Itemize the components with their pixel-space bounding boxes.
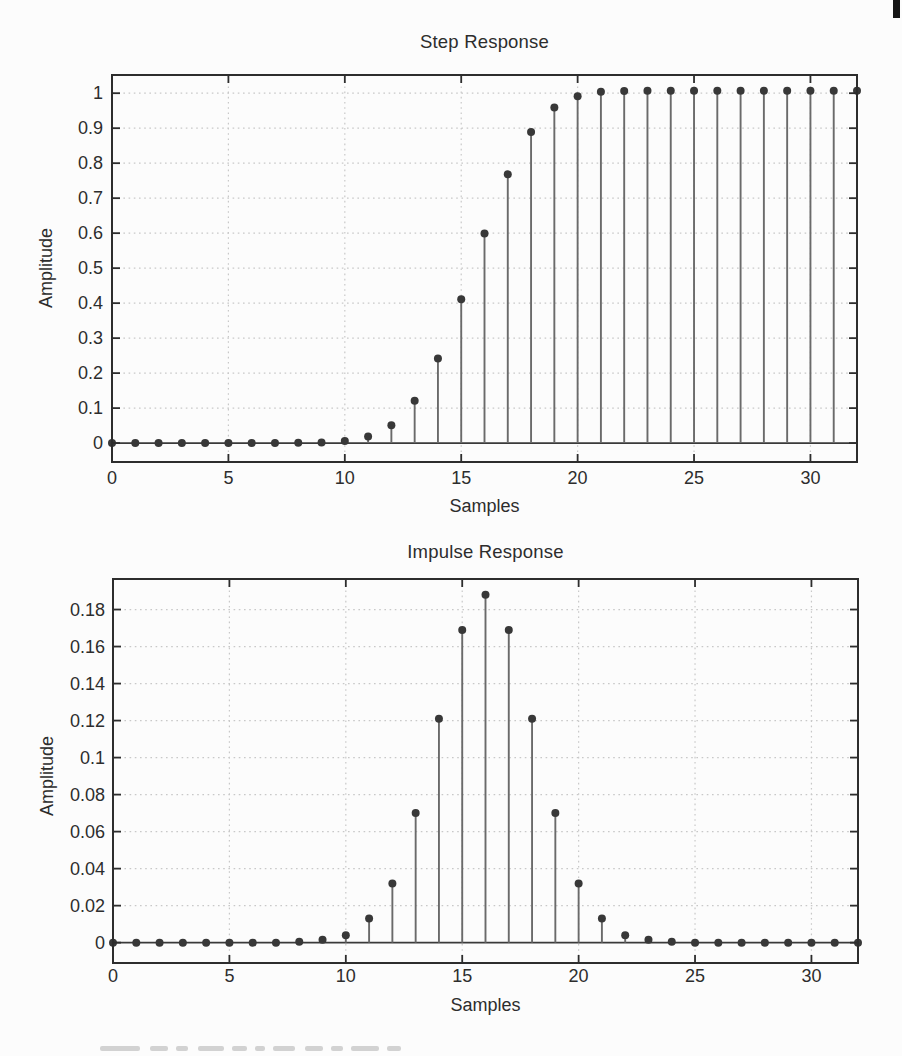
x-tick-label: 30	[800, 468, 820, 488]
data-point	[668, 938, 676, 946]
data-point	[131, 439, 139, 447]
data-point	[761, 939, 769, 947]
data-point	[551, 809, 559, 817]
data-point	[364, 432, 372, 440]
data-point	[202, 939, 210, 947]
data-point	[667, 87, 675, 95]
stem-plots-canvas: 05101520253000.10.20.30.40.50.60.70.80.9…	[0, 0, 902, 1056]
data-point	[319, 936, 327, 944]
data-point	[574, 92, 582, 100]
y-tick-label: 0.7	[78, 188, 103, 208]
y-tick-label: 0.02	[70, 896, 105, 916]
y-tick-label: 0.2	[78, 363, 103, 383]
y-tick-label: 0.6	[78, 223, 103, 243]
y-tick-label: 0.1	[80, 748, 105, 768]
y-tick-label: 0.18	[70, 600, 105, 620]
caption-fragment	[100, 1046, 440, 1053]
x-tick-label: 10	[335, 468, 355, 488]
data-point	[272, 939, 280, 947]
data-point	[155, 439, 163, 447]
data-point	[738, 939, 746, 947]
data-point	[365, 915, 373, 923]
data-point	[714, 939, 722, 947]
data-point	[598, 915, 606, 923]
y-tick-label: 0	[93, 433, 103, 453]
data-point	[482, 591, 490, 599]
data-point	[295, 938, 303, 946]
y-tick-label: 0.1	[78, 398, 103, 418]
data-point	[691, 939, 699, 947]
y-tick-label: 0.06	[70, 822, 105, 842]
data-point	[806, 87, 814, 95]
data-point	[690, 87, 698, 95]
y-tick-label: 0.08	[70, 785, 105, 805]
data-point	[621, 931, 629, 939]
y-tick-label: 1	[93, 83, 103, 103]
data-point	[504, 170, 512, 178]
data-point	[527, 128, 535, 136]
data-point	[550, 104, 558, 112]
data-point	[458, 626, 466, 634]
data-point	[178, 439, 186, 447]
data-point	[783, 87, 791, 95]
data-point	[620, 87, 628, 95]
data-point	[132, 939, 140, 947]
data-point	[388, 879, 396, 887]
data-point	[412, 809, 420, 817]
x-tick-label: 15	[451, 468, 471, 488]
x-tick-label: 0	[108, 966, 118, 986]
data-point	[597, 88, 605, 96]
y-tick-label: 0.8	[78, 153, 103, 173]
data-point	[644, 936, 652, 944]
data-point	[528, 715, 536, 723]
data-point	[575, 879, 583, 887]
data-point	[457, 295, 465, 303]
data-point	[248, 439, 256, 447]
data-point	[807, 939, 815, 947]
data-point	[434, 354, 442, 362]
x-tick-label: 30	[801, 966, 821, 986]
y-tick-label: 0.16	[70, 637, 105, 657]
x-tick-label: 25	[684, 468, 704, 488]
x-tick-label: 25	[685, 966, 705, 986]
data-point	[318, 438, 326, 446]
x-tick-label: 0	[107, 468, 117, 488]
data-point	[271, 439, 279, 447]
data-point	[225, 939, 233, 947]
x-tick-label: 5	[224, 966, 234, 986]
data-point	[224, 439, 232, 447]
data-point	[342, 931, 350, 939]
y-tick-label: 0.5	[78, 258, 103, 278]
data-point	[830, 87, 838, 95]
data-point	[643, 87, 651, 95]
data-point	[249, 939, 257, 947]
y-tick-label: 0.14	[70, 674, 105, 694]
data-point	[831, 939, 839, 947]
data-point	[411, 397, 419, 405]
data-point	[713, 87, 721, 95]
data-point	[737, 87, 745, 95]
x-tick-label: 10	[336, 966, 356, 986]
y-tick-label: 0.12	[70, 711, 105, 731]
y-tick-label: 0.9	[78, 118, 103, 138]
data-point	[179, 939, 187, 947]
x-tick-label: 20	[568, 468, 588, 488]
y-tick-label: 0.4	[78, 293, 103, 313]
data-point	[481, 230, 489, 238]
data-point	[784, 939, 792, 947]
data-point	[505, 626, 513, 634]
y-tick-label: 0.04	[70, 859, 105, 879]
data-point	[387, 421, 395, 429]
y-tick-label: 0	[95, 933, 105, 953]
data-point	[201, 439, 209, 447]
y-tick-label: 0.3	[78, 328, 103, 348]
x-tick-label: 5	[223, 468, 233, 488]
data-point	[435, 715, 443, 723]
x-tick-label: 20	[569, 966, 589, 986]
x-tick-label: 15	[452, 966, 472, 986]
data-point	[294, 439, 302, 447]
data-point	[341, 437, 349, 445]
data-point	[156, 939, 164, 947]
data-point	[760, 87, 768, 95]
